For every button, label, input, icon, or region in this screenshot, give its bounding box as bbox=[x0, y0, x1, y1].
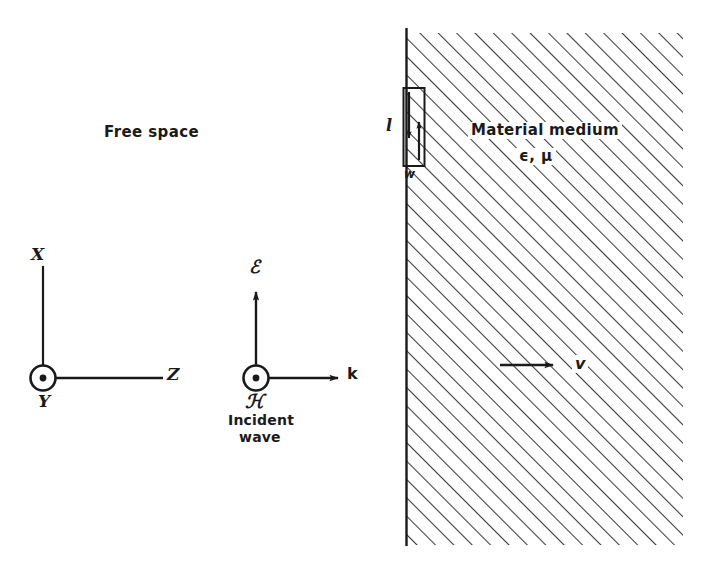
physics-figure-canvas: Free space X Y Z ℰ ℋ k Incident wave l w… bbox=[0, 0, 706, 569]
magnetic-field-label: ℋ bbox=[245, 392, 264, 411]
loop-width-label: w bbox=[404, 168, 415, 180]
coordinate-axes bbox=[31, 266, 164, 391]
material-medium-region bbox=[407, 33, 683, 545]
constitutive-parameters-label: ϵ, μ bbox=[516, 148, 556, 165]
material-medium-label: Material medium bbox=[468, 122, 622, 139]
axis-y-label: Y bbox=[38, 393, 50, 410]
propagation-vector-label: k bbox=[347, 366, 358, 382]
electric-field-label: ℰ bbox=[249, 258, 260, 276]
incident-wave-triad bbox=[244, 292, 339, 391]
incident-wave-caption-line1: Incident bbox=[228, 413, 294, 427]
magnetic-field-out-of-page-dot bbox=[253, 375, 260, 382]
loop-length-label: l bbox=[386, 118, 392, 134]
incident-wave-caption-line2: wave bbox=[239, 430, 281, 444]
axis-y-out-of-page-dot bbox=[40, 375, 47, 382]
velocity-label: v bbox=[572, 355, 588, 373]
axis-z-label: Z bbox=[167, 366, 179, 383]
figure-artwork bbox=[0, 0, 706, 569]
free-space-label: Free space bbox=[104, 125, 199, 140]
axis-x-label: X bbox=[31, 246, 44, 263]
